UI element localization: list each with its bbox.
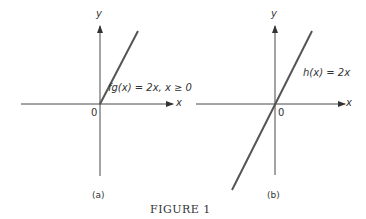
panel-b-function-label: h(x) = 2x	[303, 68, 350, 78]
figure-caption: FIGURE 1	[150, 203, 211, 216]
panel-b-function-line	[232, 31, 312, 190]
panel-a-function-line	[100, 31, 138, 104]
panel-a-x-label: x	[176, 98, 182, 108]
panel-a-y-label: y	[96, 9, 102, 19]
panel-a-graph	[21, 26, 173, 176]
panel-b-x-label: x	[346, 98, 352, 108]
panel-a-function-label: fg(x) = 2x, x ≥ 0	[108, 83, 192, 93]
panel-b-label: (b)	[267, 191, 280, 200]
panel-b-y-label: y	[271, 9, 277, 19]
panel-a-label: (a)	[92, 191, 105, 200]
figure-canvas	[0, 0, 366, 219]
panel-b-graph	[196, 26, 345, 190]
panel-b-origin-label: 0	[278, 108, 284, 118]
panel-a-origin-label: 0	[91, 108, 97, 118]
